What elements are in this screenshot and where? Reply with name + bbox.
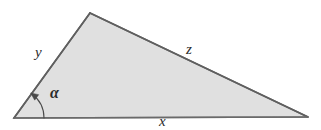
triangle-shape <box>14 13 308 118</box>
triangle-diagram: y z x α <box>0 0 321 130</box>
angle-label-alpha: α <box>50 85 59 101</box>
side-label-z: z <box>186 42 192 57</box>
triangle-graphic <box>0 0 321 130</box>
side-label-x: x <box>159 114 166 129</box>
side-label-y: y <box>35 45 42 60</box>
